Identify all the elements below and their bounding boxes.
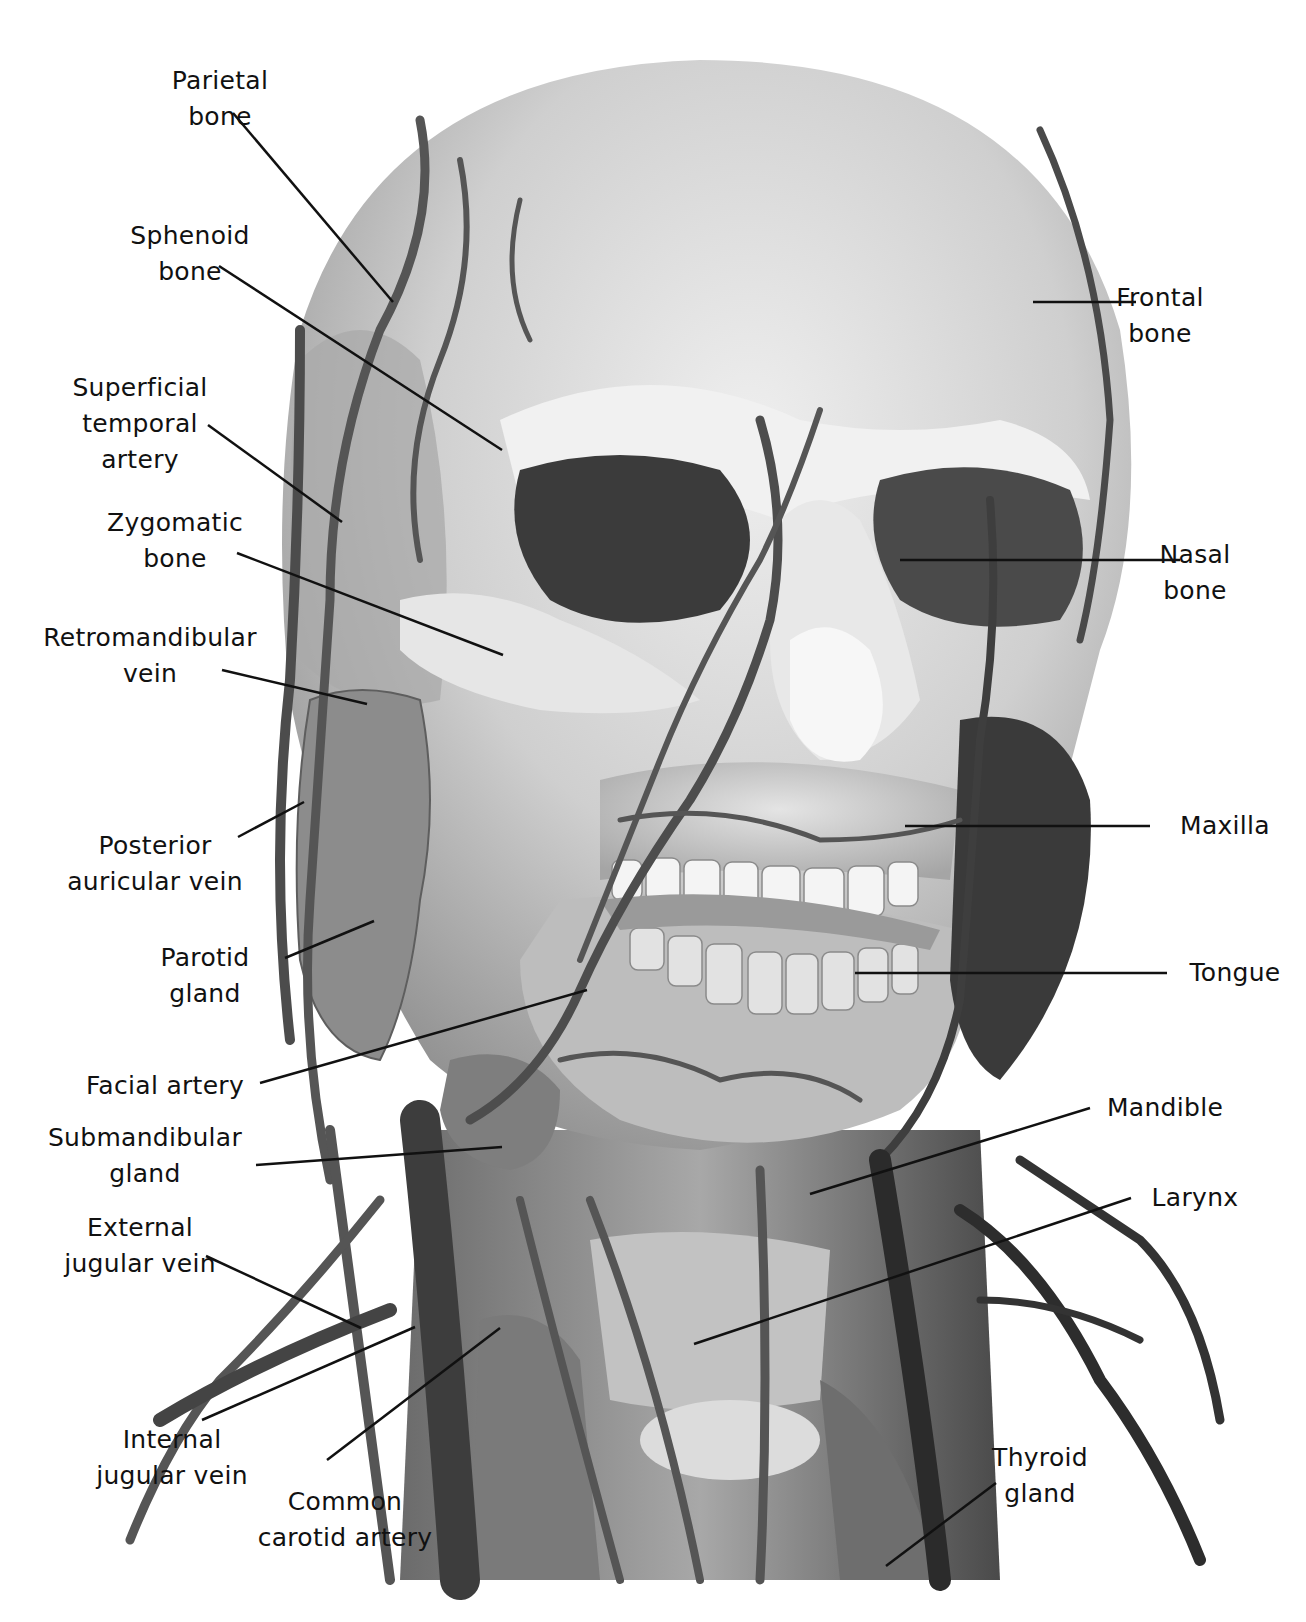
label-larynx: Larynx bbox=[1140, 1180, 1250, 1216]
label-tongue: Tongue bbox=[1180, 955, 1290, 991]
label-sphenoid-bone: Sphenoid bone bbox=[90, 218, 290, 290]
label-common-carotid-artery: Common carotid artery bbox=[245, 1484, 445, 1556]
label-parietal-bone: Parietal bone bbox=[130, 63, 310, 135]
label-parotid-gland: Parotid gland bbox=[125, 940, 285, 1012]
label-facial-artery: Facial artery bbox=[60, 1068, 270, 1104]
left-orbit bbox=[514, 455, 750, 623]
label-maxilla: Maxilla bbox=[1165, 808, 1285, 844]
label-posterior-auricular-vein: Posterior auricular vein bbox=[45, 828, 265, 900]
label-frontal-bone: Frontal bone bbox=[1100, 280, 1220, 352]
label-external-jugular-vein: External jugular vein bbox=[45, 1210, 235, 1282]
label-superficial-temporal-artery: Superficial temporal artery bbox=[40, 370, 240, 478]
label-internal-jugular-vein: Internal jugular vein bbox=[82, 1422, 262, 1494]
label-retromandibular-vein: Retromandibular vein bbox=[20, 620, 280, 692]
right-orbit bbox=[873, 467, 1083, 627]
label-mandible: Mandible bbox=[1095, 1090, 1235, 1126]
label-thyroid-gland: Thyroid gland bbox=[985, 1440, 1095, 1512]
label-nasal-bone: Nasal bone bbox=[1140, 537, 1250, 609]
label-zygomatic-bone: Zygomatic bone bbox=[75, 505, 275, 577]
larynx-structure bbox=[590, 1232, 830, 1410]
label-submandibular-gland: Submandibular gland bbox=[25, 1120, 265, 1192]
